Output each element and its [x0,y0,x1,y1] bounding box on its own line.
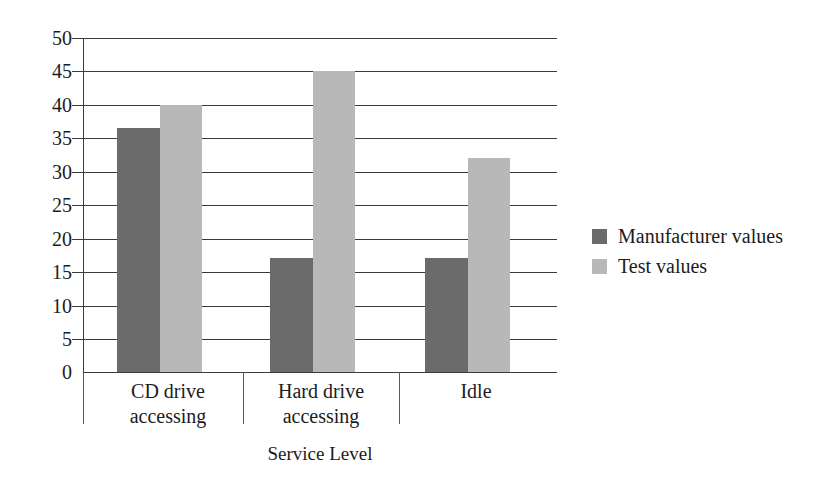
tick-40 [72,105,83,106]
y-tick-label: 35 [26,128,72,148]
y-tick-label: 0 [26,362,72,382]
bar-manufacturer-idle [425,258,468,372]
y-tick-label: 15 [26,262,72,282]
legend-swatch-manufacturer-values [592,229,607,244]
bar-test-idle [468,158,510,372]
y-tick-label: 50 [26,28,72,48]
tick-35 [72,138,83,139]
tick-50 [72,38,83,39]
tick-10 [72,306,83,307]
bar-test-hard-drive-accessing [313,71,355,372]
plot-area [83,38,557,372]
x-axis-title: Service Level [83,443,557,465]
x-category-label-idle: Idle [411,379,541,404]
y-tick-label: 10 [26,296,72,316]
tick-5 [72,339,83,340]
x-category-label-cd-drive-accessing: CD drive accessing [103,379,233,429]
legend-item-manufacturer-values: Manufacturer values [592,224,822,248]
gridline-50 [83,38,557,39]
tick-15 [72,272,83,273]
y-tick-label: 40 [26,95,72,115]
category-separator-2 [399,372,400,424]
legend-swatch-test-values [592,259,607,274]
y-tick-label: 5 [26,329,72,349]
x-axis-line [83,372,557,373]
category-separator-1 [243,372,244,424]
tick-20 [72,239,83,240]
legend: Manufacturer values Test values [592,224,822,284]
bar-manufacturer-cd-drive-accessing [117,128,160,372]
y-tick-label: 30 [26,162,72,182]
tick-30 [72,172,83,173]
y-tick-label: 20 [26,229,72,249]
tick-25 [72,205,83,206]
legend-item-test-values: Test values [592,254,822,278]
bar-manufacturer-hard-drive-accessing [270,258,313,372]
tick-45 [72,71,83,72]
bar-chart: 50 45 40 35 30 25 20 15 10 5 0 [0,0,829,489]
legend-label-test-values: Test values [618,255,707,277]
y-tick-label: 25 [26,195,72,215]
x-category-label-hard-drive-accessing: Hard drive accessing [256,379,386,429]
bar-test-cd-drive-accessing [160,105,202,372]
y-tick-label: 45 [26,61,72,81]
category-separator-left [83,372,84,424]
legend-label-manufacturer-values: Manufacturer values [618,225,783,247]
